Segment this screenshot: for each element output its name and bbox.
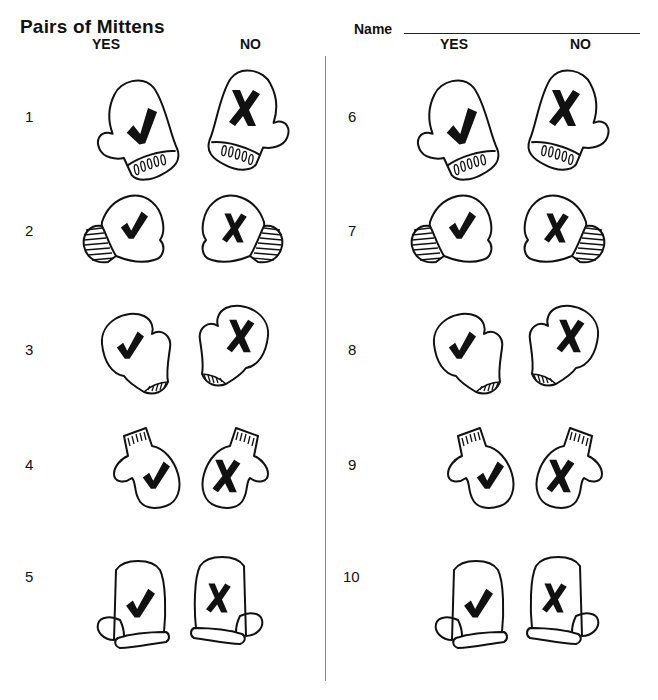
mitten-no[interactable] xyxy=(520,414,620,524)
mitten-no[interactable] xyxy=(200,58,300,168)
row-number: 1 xyxy=(25,108,33,125)
mitten-yes[interactable] xyxy=(68,190,178,280)
mitten-yes[interactable] xyxy=(76,550,186,660)
page-title: Pairs of Mittens xyxy=(20,16,165,38)
mitten-yes[interactable] xyxy=(414,550,524,660)
row-number: 10 xyxy=(343,568,360,585)
mitten-no[interactable] xyxy=(514,292,624,392)
mitten-no[interactable] xyxy=(184,292,294,392)
mitten-yes[interactable] xyxy=(412,300,522,400)
right-yes-header: YES xyxy=(440,36,468,52)
mitten-no[interactable] xyxy=(190,186,300,276)
left-yes-header: YES xyxy=(92,36,120,52)
row-number: 3 xyxy=(25,341,33,358)
mitten-no[interactable] xyxy=(520,58,620,168)
row-number: 9 xyxy=(348,456,356,473)
row-number: 2 xyxy=(25,222,33,239)
right-no-header: NO xyxy=(570,36,591,52)
mitten-no[interactable] xyxy=(180,546,290,656)
mitten-yes[interactable] xyxy=(88,68,188,178)
mitten-no[interactable] xyxy=(186,414,286,524)
mitten-yes[interactable] xyxy=(396,190,506,280)
row-number: 6 xyxy=(348,108,356,125)
mitten-yes[interactable] xyxy=(408,68,508,178)
row-number: 7 xyxy=(348,222,356,239)
mitten-no[interactable] xyxy=(512,186,622,276)
mitten-yes[interactable] xyxy=(96,418,196,518)
name-label: Name xyxy=(354,21,392,37)
row-number: 8 xyxy=(348,341,356,358)
mitten-yes[interactable] xyxy=(80,300,190,400)
mitten-yes[interactable] xyxy=(430,418,530,518)
left-no-header: NO xyxy=(240,36,261,52)
row-number: 4 xyxy=(25,456,33,473)
column-divider xyxy=(325,56,326,681)
mitten-no[interactable] xyxy=(516,546,626,656)
row-number: 5 xyxy=(25,568,33,585)
name-field[interactable] xyxy=(404,33,640,34)
